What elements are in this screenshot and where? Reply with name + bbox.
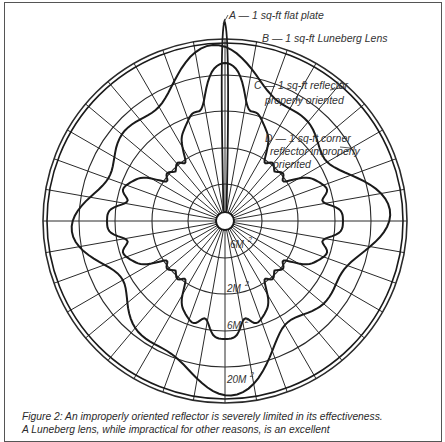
svg-text:2: 2 bbox=[247, 236, 252, 243]
svg-text:6M: 6M bbox=[227, 320, 242, 331]
grid-spoke bbox=[163, 229, 222, 392]
ring-label-1: 6M 2 bbox=[230, 236, 252, 250]
svg-text:2: 2 bbox=[249, 371, 254, 378]
grid-spoke bbox=[46, 189, 216, 219]
ring-label-4: 20M 2 bbox=[226, 371, 254, 385]
svg-text:20M: 20M bbox=[226, 374, 247, 385]
svg-text:2: 2 bbox=[244, 280, 249, 287]
center-hub bbox=[216, 212, 234, 230]
grid-spoke bbox=[67, 226, 217, 313]
grid-spoke bbox=[230, 229, 317, 379]
svg-text:6M: 6M bbox=[230, 239, 245, 250]
grid-spoke bbox=[86, 104, 219, 215]
grid-spoke bbox=[163, 50, 222, 213]
grid-spoke bbox=[233, 159, 396, 218]
grid-spoke bbox=[233, 226, 383, 313]
legend-d-line1: D — 1 sq-ft corner bbox=[265, 132, 351, 144]
legend-a: A — 1 sq-ft flat plate bbox=[228, 9, 324, 21]
grid-spoke bbox=[233, 224, 396, 283]
legend-d-line3: oriented bbox=[273, 158, 312, 170]
ring-label-2: 2M 2 bbox=[226, 280, 249, 294]
grid-spoke bbox=[193, 230, 223, 400]
legend-c-line2: properly oriented bbox=[264, 94, 345, 106]
grid-spoke bbox=[54, 224, 217, 283]
caption-line-1: Figure 2: An improperly oriented reflect… bbox=[22, 411, 383, 422]
grid-spoke bbox=[234, 189, 404, 219]
grid-spoke bbox=[228, 229, 287, 392]
grid-spoke bbox=[134, 229, 221, 379]
svg-text:2: 2 bbox=[244, 317, 249, 324]
svg-text:2M: 2M bbox=[226, 283, 242, 294]
grid-spoke bbox=[227, 42, 257, 212]
caption-line-2: A Luneberg lens, while impractical for o… bbox=[22, 423, 442, 436]
figure-caption: Figure 2: An improperly oriented reflect… bbox=[22, 410, 442, 436]
grid-spoke bbox=[193, 42, 223, 212]
grid-spoke bbox=[67, 130, 217, 217]
legend-b: B — 1 sq-ft Luneberg Lens bbox=[262, 32, 388, 44]
legend-d-line2: reflector improperly bbox=[270, 145, 361, 157]
